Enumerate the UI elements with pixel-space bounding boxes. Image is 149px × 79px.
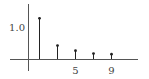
stems-group bbox=[38, 17, 113, 59]
stem-marker bbox=[92, 52, 95, 55]
x-tick-label: 5 bbox=[72, 65, 78, 76]
x-tick-label: 9 bbox=[108, 65, 114, 76]
stem-marker bbox=[74, 49, 77, 52]
stem-marker bbox=[110, 53, 113, 56]
stem-9 bbox=[110, 53, 113, 59]
stem-7 bbox=[92, 52, 95, 59]
stem-chart: 59 1.0 bbox=[0, 0, 149, 79]
stem-marker bbox=[38, 17, 41, 20]
y-tick-label: 1.0 bbox=[9, 22, 25, 33]
stem-marker bbox=[56, 44, 59, 47]
stem-3 bbox=[56, 44, 59, 59]
stem-5 bbox=[74, 49, 77, 59]
x-tick-labels: 59 bbox=[72, 65, 114, 76]
stem-1 bbox=[38, 17, 41, 59]
y-tick-labels: 1.0 bbox=[9, 22, 25, 33]
